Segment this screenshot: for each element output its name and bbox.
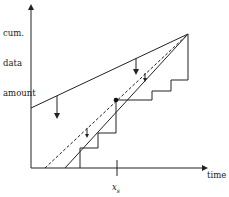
xs-label: xs (112, 182, 120, 196)
x-axis-label: time (207, 170, 226, 180)
staircase-cumulative-data (80, 34, 188, 168)
xs-label-sub: s (117, 187, 120, 194)
upper-bound-line (31, 34, 188, 108)
y-axis-label-line-1: cum. (3, 28, 36, 38)
y-axis-label-line-2: data (3, 58, 36, 68)
y-axis-label-line-3: amount (3, 88, 36, 98)
y-axis-label: cum. data amount (3, 8, 36, 108)
intersection-dot (114, 98, 119, 103)
